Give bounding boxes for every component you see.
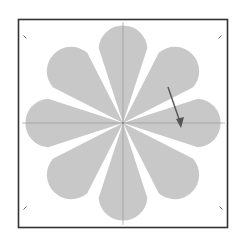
center-point bbox=[122, 122, 124, 124]
petal-diagram bbox=[0, 0, 241, 246]
